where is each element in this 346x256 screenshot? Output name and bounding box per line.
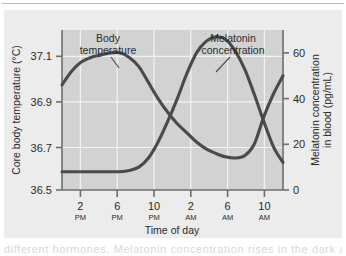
- chart-svg: 37.1 36.9 36.7 36.5 Core body temperatur…: [4, 10, 342, 238]
- x-axis: [62, 190, 283, 197]
- right-tick-label-0: 60: [293, 47, 305, 59]
- right-axis-title-line2: in blood (pg/mL): [321, 72, 333, 148]
- melatonin-annotation-line2: concentration: [201, 44, 264, 56]
- x-axis-title: Time of day: [145, 224, 200, 236]
- right-tick-label-3: 0: [293, 184, 299, 196]
- x-tick-labels: 2 PM 6 PM 10 PM 2 AM 6 AM 10 AM: [75, 200, 271, 222]
- x-tick-hour-4: 6: [225, 200, 231, 212]
- body-temperature-annotation-line2: temperature: [80, 44, 137, 56]
- x-tick-meridiem-4: AM: [222, 213, 233, 222]
- left-tick-label-1: 36.9: [31, 96, 52, 108]
- x-tick-meridiem-2: PM: [148, 213, 159, 222]
- page-top-rule: [2, 3, 344, 4]
- page-text-fragment: different hormones. Melatonin concentrat…: [4, 243, 342, 255]
- melatonin-annotation-line1: Melatonin: [210, 32, 256, 44]
- left-tick-label-2: 36.7: [31, 142, 52, 154]
- x-tick-hour-5: 10: [258, 200, 270, 212]
- body-temperature-annotation-line1: Body: [96, 32, 121, 44]
- x-tick-hour-2: 10: [148, 200, 160, 212]
- x-tick-hour-1: 6: [114, 200, 120, 212]
- left-axis-title: Core body temperature (°C): [10, 45, 22, 175]
- right-tick-label-1: 40: [293, 93, 305, 105]
- right-tick-label-2: 20: [293, 138, 305, 150]
- left-tick-label-3: 36.5: [31, 184, 52, 196]
- x-tick-meridiem-1: PM: [112, 213, 123, 222]
- left-axis: 37.1 36.9 36.7 36.5: [31, 30, 62, 196]
- x-tick-meridiem-0: PM: [75, 213, 86, 222]
- x-tick-hour-3: 2: [188, 200, 194, 212]
- x-tick-meridiem-5: AM: [259, 213, 270, 222]
- x-tick-hour-0: 2: [77, 200, 83, 212]
- chart-panel: 37.1 36.9 36.7 36.5 Core body temperatur…: [4, 10, 342, 238]
- left-tick-label-0: 37.1: [31, 50, 52, 62]
- figure-container: 37.1 36.9 36.7 36.5 Core body temperatur…: [0, 0, 346, 256]
- right-axis-title: Melatonin concentration in blood (pg/mL): [309, 54, 333, 166]
- x-tick-meridiem-3: AM: [185, 213, 196, 222]
- right-axis: 60 40 20 0: [283, 30, 305, 196]
- right-axis-title-line1: Melatonin concentration: [309, 54, 321, 166]
